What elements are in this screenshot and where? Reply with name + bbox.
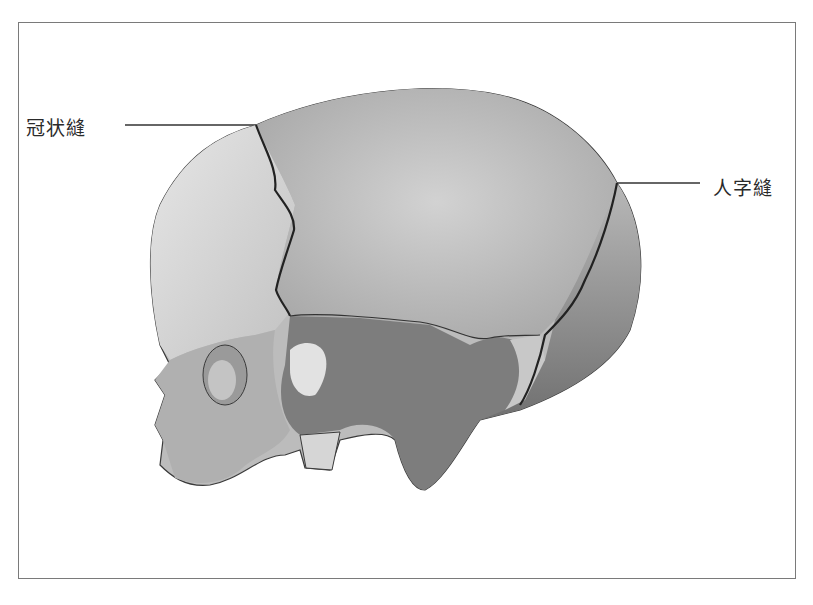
lambdoid-suture-label: 人字縫 [713, 173, 773, 200]
orbit-inner [208, 360, 236, 400]
mandible-ramus [300, 432, 340, 470]
skull-illustration [0, 0, 813, 605]
frontal-bone [151, 125, 295, 360]
parietal-bone [256, 89, 617, 340]
coronal-suture-label: 冠状縫 [26, 113, 86, 140]
